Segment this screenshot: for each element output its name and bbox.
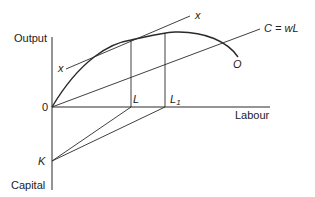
- point-K-label: K: [38, 155, 46, 167]
- production-curve: [52, 32, 238, 107]
- x-axis-label-labour: Labour: [235, 109, 270, 121]
- y-axis-label-output: Output: [14, 32, 47, 44]
- point-L-label: L: [133, 93, 139, 105]
- origin-label: 0: [42, 101, 48, 113]
- point-L1-label: L1: [170, 93, 181, 107]
- tangent-label-left: x: [57, 62, 64, 74]
- cost-line-label: C = wL: [264, 22, 299, 34]
- tangent-label-right: x: [194, 9, 201, 21]
- production-diagram: Output Capital Labour 0 L L1 K O x x C =…: [0, 0, 315, 197]
- capital-line-K-L: [52, 107, 131, 161]
- point-O-label: O: [233, 58, 242, 70]
- tangent-line: [66, 16, 190, 69]
- y-axis-label-capital: Capital: [11, 179, 45, 191]
- point-L1-subscript: 1: [176, 98, 180, 107]
- cost-line: [52, 29, 260, 107]
- capital-line-K-L1: [52, 107, 165, 161]
